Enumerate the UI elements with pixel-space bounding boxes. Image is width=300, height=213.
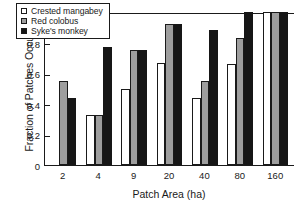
bar-group [187, 14, 222, 165]
legend-swatch-icon [21, 28, 27, 34]
legend-item: Red colobus [21, 16, 103, 26]
bar-group [258, 14, 293, 165]
x-tick-label: 2 [45, 170, 80, 181]
bar [86, 115, 95, 165]
y-tick-label: 0.6 [18, 69, 40, 80]
bar [263, 12, 272, 165]
legend-label: Crested mangabey [31, 6, 103, 16]
legend-item: Crested mangabey [21, 6, 103, 16]
legend-label: Syke's monkey [31, 26, 88, 36]
legend-swatch-icon [21, 18, 27, 24]
bar [192, 98, 201, 165]
x-tick-label: 160 [258, 170, 293, 181]
legend-swatch-icon [21, 8, 27, 14]
bar [236, 38, 245, 165]
bar [130, 50, 139, 165]
bar [157, 63, 166, 166]
bar [209, 30, 218, 165]
y-tick-mark [45, 136, 50, 137]
x-tick-label: 9 [116, 170, 151, 181]
bar [59, 81, 68, 165]
bar [227, 64, 236, 165]
bar-chart-figure: Fraction of Patches Occupied 00.20.40.60… [0, 0, 300, 213]
y-tick-label: 0.4 [18, 99, 40, 110]
bar [201, 81, 210, 165]
bar [138, 50, 147, 165]
y-tick-mark [45, 105, 50, 106]
bar-group [222, 14, 257, 165]
bar-group [117, 14, 152, 165]
legend: Crested mangabeyRed colobusSyke's monkey [16, 3, 110, 39]
bar [244, 12, 253, 165]
bar [165, 24, 174, 165]
bar [68, 98, 77, 165]
bar [280, 12, 289, 165]
legend-label: Red colobus [31, 16, 78, 26]
x-tick-label: 40 [187, 170, 222, 181]
bar-group [152, 14, 187, 165]
legend-item: Syke's monkey [21, 26, 103, 36]
bar [103, 47, 112, 165]
y-tick-label: 0 [18, 161, 40, 172]
bar [174, 24, 183, 165]
y-tick-label: 0.2 [18, 130, 40, 141]
y-tick-label: 0.8 [18, 38, 40, 49]
bar [121, 89, 130, 166]
y-tick-mark [45, 44, 50, 45]
x-axis-tick-labels: 249204080160 [44, 170, 294, 181]
bar [95, 115, 104, 165]
y-tick-mark [45, 75, 50, 76]
x-tick-label: 20 [151, 170, 186, 181]
x-tick-label: 4 [80, 170, 115, 181]
x-tick-label: 80 [222, 170, 257, 181]
x-axis-title: Patch Area (ha) [44, 188, 294, 200]
bar [271, 12, 280, 165]
